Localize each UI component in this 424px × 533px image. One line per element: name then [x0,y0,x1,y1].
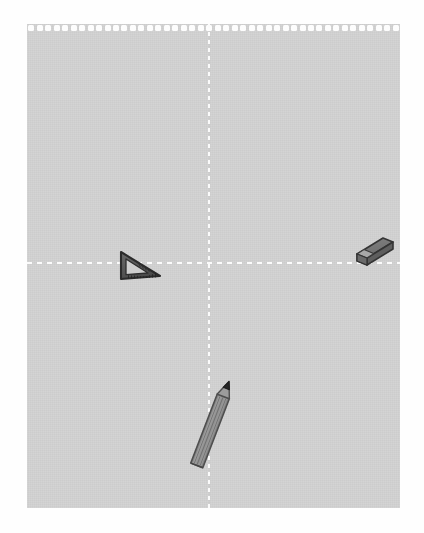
perforation-hole [96,25,102,31]
perforation-hole [384,25,390,31]
eraser-object[interactable] [345,232,397,274]
perforation-hole [249,25,255,31]
pencil-icon [185,372,237,482]
perforation-hole [308,25,314,31]
perforation-hole [147,25,153,31]
perforation-hole [28,25,34,31]
perforation-hole [189,25,195,31]
scene-root [0,0,424,533]
perforation-hole [181,25,187,31]
notepad-sheet [27,24,400,508]
perforation-hole [172,25,178,31]
perforation-hole [198,25,204,31]
perforation-hole [37,25,43,31]
perforation-hole [215,25,221,31]
perforation-hole [367,25,373,31]
perforation-hole [88,25,94,31]
perforation-hole [62,25,68,31]
perforation-hole [54,25,60,31]
perforation-hole [232,25,238,31]
perforation-hole [113,25,119,31]
perforation-hole [350,25,356,31]
perforation-hole [342,25,348,31]
eraser-icon [345,232,397,274]
perforation-hole [164,25,170,31]
perforation-strip [27,24,400,38]
perforation-hole [376,25,382,31]
perforation-hole [240,25,246,31]
perforation-hole [130,25,136,31]
perforation-hole [333,25,339,31]
perforation-hole [325,25,331,31]
perforation-hole [121,25,127,31]
perforation-hole [359,25,365,31]
perforation-hole [257,25,263,31]
perforation-hole [79,25,85,31]
pencil-object[interactable] [185,372,237,482]
perforation-hole [274,25,280,31]
perforation-hole [71,25,77,31]
perforation-hole [283,25,289,31]
perforation-hole [223,25,229,31]
perforation-hole [105,25,111,31]
set-square-icon [115,248,165,284]
perforation-hole [266,25,272,31]
perforation-hole [393,25,399,31]
perforation-hole [155,25,161,31]
set-square-object[interactable] [115,248,165,284]
perforation-hole [300,25,306,31]
perforation-hole [291,25,297,31]
perforation-hole [138,25,144,31]
perforation-hole [45,25,51,31]
perforation-hole [316,25,322,31]
